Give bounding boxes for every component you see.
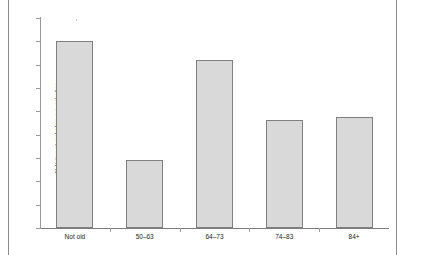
x-axis-tick-label: 64–73 xyxy=(180,234,250,241)
poverty-bar-chart: % living at or below poverty line 505152… xyxy=(0,0,423,255)
x-axis-tick-label: 74–83 xyxy=(249,234,319,241)
chart-screenshot: % living at or below poverty line 505152… xyxy=(0,0,423,255)
x-axis-tick xyxy=(249,228,250,232)
x-axis-tick-label: 84+ xyxy=(319,234,389,241)
x-axis-line xyxy=(40,228,389,229)
y-axis-line xyxy=(40,17,41,229)
bar-84[interactable] xyxy=(336,117,373,228)
bar-not-old[interactable] xyxy=(56,41,93,228)
x-axis-tick-label: 50–63 xyxy=(110,234,180,241)
y-axis-tick xyxy=(36,88,41,89)
y-axis-tick xyxy=(36,18,41,19)
y-axis-tick xyxy=(36,65,41,66)
bar-74-83[interactable] xyxy=(266,120,303,229)
x-axis-tick xyxy=(319,228,320,232)
y-axis-tick xyxy=(36,111,41,112)
x-axis-tick-label: Not old xyxy=(40,234,110,241)
y-axis-tick xyxy=(36,228,41,229)
stray-mark xyxy=(76,19,77,21)
y-axis-tick xyxy=(36,158,41,159)
y-axis-tick xyxy=(36,41,41,42)
bar-64-73[interactable] xyxy=(196,60,233,228)
x-axis-tick xyxy=(180,228,181,232)
y-axis-tick xyxy=(36,205,41,206)
y-axis-tick xyxy=(36,135,41,136)
bar-50-63[interactable] xyxy=(126,160,163,228)
y-axis-tick xyxy=(36,181,41,182)
x-axis-tick xyxy=(110,228,111,232)
